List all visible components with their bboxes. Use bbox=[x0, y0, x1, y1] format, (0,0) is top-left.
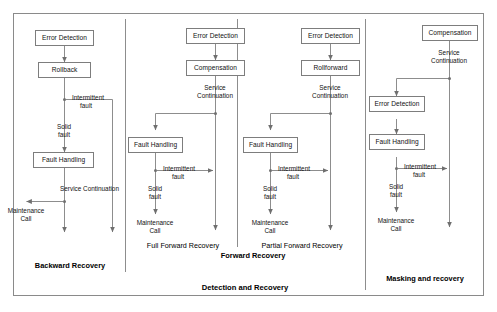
c3-label-solid-fault-line2: fault bbox=[264, 193, 276, 201]
c1-label-solid-fault-line2: fault bbox=[58, 131, 70, 139]
c3-label-maintenance-call-line2: Call bbox=[264, 227, 275, 235]
c3-node-fault-handling[interactable]: Fault Handling bbox=[243, 137, 298, 153]
c2-label-service-continuation-line2: Continuation bbox=[197, 92, 233, 100]
c1-node-error-detection[interactable]: Error Detection bbox=[35, 30, 94, 46]
c4-label-service-continuation-line1: Service bbox=[438, 49, 459, 57]
c4-node-fault-handling[interactable]: Fault Handling bbox=[369, 134, 425, 150]
c4-label-maintenance-call-line2: Call bbox=[390, 225, 401, 233]
c1-label-service-continuation: Service Continuation bbox=[60, 185, 119, 193]
c1-label-intermittent-fault-line2: fault bbox=[80, 102, 92, 110]
c2-label-intermittent-fault-line1: Intermittent bbox=[163, 165, 195, 173]
c2-node-error-detection[interactable]: Error Detection bbox=[186, 28, 245, 44]
c4-label-maintenance-call-line1: Maintenance bbox=[378, 217, 415, 225]
c4-label-solid-fault-line2: fault bbox=[390, 191, 402, 199]
c1-label-maintenance-call-line1: Maintenance bbox=[8, 207, 45, 215]
c2-node-compensation[interactable]: Compensation bbox=[186, 60, 245, 76]
c3-node-error-detection[interactable]: Error Detection bbox=[301, 28, 360, 44]
column-name-masking-and-recovery: Masking and recovery bbox=[386, 274, 464, 283]
diagram-title-detection-and-recovery: Detection and Recovery bbox=[202, 283, 289, 292]
c3-label-intermittent-fault-line1: Intermittent bbox=[278, 165, 310, 173]
c2-label-solid-fault-line1: Solid bbox=[148, 185, 162, 193]
c1-label-maintenance-call-line2: Call bbox=[20, 215, 31, 223]
c4-node-error-detection[interactable]: Error Detection bbox=[369, 96, 425, 112]
column-name-full-forward-recovery: Full Forward Recovery bbox=[147, 241, 219, 250]
c4-label-intermittent-fault-line1: Intermittent bbox=[404, 163, 436, 171]
c3-label-maintenance-call-line1: Maintenance bbox=[252, 219, 289, 227]
group-label-forward-recovery: Forward Recovery bbox=[221, 251, 286, 260]
c4-label-solid-fault-line1: Solid bbox=[389, 183, 403, 191]
c4-node-compensation[interactable]: Compensation bbox=[422, 25, 478, 41]
c3-label-service-continuation-line1: Service bbox=[319, 84, 340, 92]
c2-label-maintenance-call-line1: Maintenance bbox=[137, 219, 174, 227]
c1-node-rollback[interactable]: Rollback bbox=[38, 62, 91, 78]
c4-label-intermittent-fault-line2: fault bbox=[413, 171, 425, 179]
c2-node-fault-handling[interactable]: Fault Handling bbox=[128, 137, 183, 153]
c3-node-rollforward[interactable]: Rollforward bbox=[301, 60, 360, 76]
c2-label-service-continuation-line1: Service bbox=[204, 84, 225, 92]
c2-label-intermittent-fault-line2: fault bbox=[172, 173, 184, 181]
column-name-backward-recovery: Backward Recovery bbox=[35, 261, 105, 270]
c3-label-service-continuation-line2: Continuation bbox=[312, 92, 348, 100]
c1-label-intermittent-fault-line1: Intermittent bbox=[72, 94, 104, 102]
c3-label-solid-fault-line1: Solid bbox=[263, 185, 277, 193]
c1-label-solid-fault-line1: Solid bbox=[57, 123, 71, 131]
c2-label-maintenance-call-line2: Call bbox=[149, 227, 160, 235]
diagram-canvas: Error Detection Rollback Fault Handling … bbox=[0, 0, 497, 312]
c3-label-intermittent-fault-line2: fault bbox=[287, 173, 299, 181]
c4-label-service-continuation-line2: Continuation bbox=[431, 57, 467, 65]
c2-label-solid-fault-line2: fault bbox=[149, 193, 161, 201]
column-name-partial-forward-recovery: Partial Forward Recovery bbox=[261, 241, 342, 250]
c1-node-fault-handling[interactable]: Fault Handling bbox=[33, 152, 94, 168]
